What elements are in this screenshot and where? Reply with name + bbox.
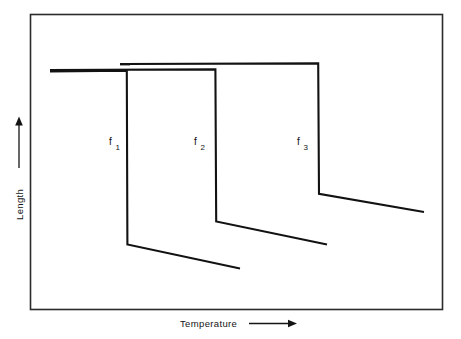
figure-container: f 1 f 2 f 3 Length Temperature <box>0 0 461 339</box>
curve-label-f2: f <box>194 136 197 147</box>
curve-label-f3: f <box>297 136 300 147</box>
curve-f3 <box>124 63 424 212</box>
up-arrow-icon <box>15 117 23 126</box>
curve-label-f1: f <box>109 136 112 147</box>
x-axis-group: Temperature <box>180 318 297 329</box>
x-axis-label: Temperature <box>180 318 237 329</box>
y-axis-group: Length <box>14 117 25 221</box>
y-axis-label: Length <box>14 189 25 220</box>
plot-frame <box>31 15 443 310</box>
phase-transition-plot: f 1 f 2 f 3 Length Temperature <box>0 0 461 339</box>
curve-f1 <box>50 71 240 269</box>
right-arrow-icon <box>288 320 297 327</box>
curve-label-f1-subscript: 1 <box>116 143 121 152</box>
curve-label-f3-subscript: 3 <box>304 143 309 152</box>
curve-label-f2-subscript: 2 <box>201 143 206 152</box>
curve-f2 <box>50 69 327 244</box>
